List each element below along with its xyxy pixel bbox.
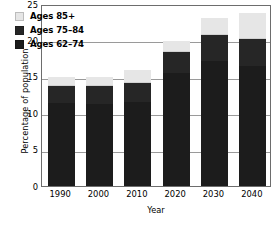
bar-2000 — [86, 77, 113, 186]
bar-segment-ages-62-74 — [239, 66, 266, 186]
legend-swatch-icon — [15, 26, 24, 35]
bar-segment-ages-75-84 — [163, 52, 190, 73]
bar-segment-ages-85 — [86, 77, 113, 87]
legend-label: Ages 75–84 — [30, 25, 84, 35]
legend-item: Ages 62–74 — [15, 37, 114, 51]
legend-swatch-icon — [15, 12, 24, 21]
x-tick-label-2000: 2000 — [79, 189, 117, 199]
bar-segment-ages-85 — [239, 13, 266, 39]
bar-segment-ages-62-74 — [48, 103, 75, 186]
bar-1990 — [48, 77, 75, 186]
bar-segment-ages-75-84 — [201, 35, 228, 60]
bar-2030 — [201, 18, 228, 186]
legend-label: Ages 62–74 — [30, 39, 84, 49]
bar-segment-ages-62-74 — [163, 73, 190, 186]
bar-segment-ages-75-84 — [48, 86, 75, 103]
x-tick-label-2040: 2040 — [233, 189, 271, 199]
bar-segment-ages-62-74 — [124, 102, 151, 186]
legend-item: Ages 75–84 — [15, 23, 114, 37]
gridline — [42, 115, 270, 116]
bar-segment-ages-85 — [163, 41, 190, 52]
x-tick-label-2020: 2020 — [156, 189, 194, 199]
bar-2040 — [239, 13, 266, 186]
bar-segment-ages-62-74 — [86, 104, 113, 186]
x-tick-label-2030: 2030 — [194, 189, 232, 199]
gridline — [42, 79, 270, 80]
y-tick-label: 15 — [16, 72, 38, 82]
bar-segment-ages-75-84 — [239, 39, 266, 66]
gridline — [42, 152, 270, 153]
legend-item: Ages 85+ — [15, 9, 114, 23]
legend-label: Ages 85+ — [30, 11, 75, 21]
bar-2010 — [124, 70, 151, 187]
legend-swatch-icon — [15, 40, 24, 49]
bar-segment-ages-62-74 — [201, 61, 228, 186]
bar-segment-ages-75-84 — [86, 86, 113, 104]
bar-segment-ages-85 — [124, 70, 151, 84]
x-tick-label-1990: 1990 — [41, 189, 79, 199]
x-axis-title: Year — [41, 205, 271, 215]
chart-figure: Percentage of population 0510152025 1990… — [0, 0, 277, 230]
y-tick-label: 10 — [16, 109, 38, 119]
x-axis-tick-labels: 199020002010202020302040 — [41, 189, 271, 203]
x-tick-label-2010: 2010 — [118, 189, 156, 199]
y-tick-label: 0 — [16, 182, 38, 192]
bar-segment-ages-85 — [201, 18, 228, 36]
bar-segment-ages-75-84 — [124, 83, 151, 102]
bar-segment-ages-85 — [48, 77, 75, 86]
chart-legend: Ages 85+Ages 75–84Ages 62–74 — [12, 6, 116, 54]
bar-2020 — [163, 41, 190, 186]
y-tick-label: 5 — [16, 145, 38, 155]
